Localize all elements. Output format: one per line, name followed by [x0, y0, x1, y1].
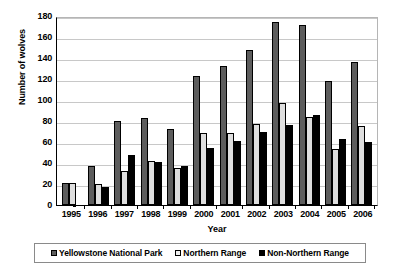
bar — [88, 166, 95, 205]
bar — [279, 103, 286, 205]
bar-group — [164, 18, 190, 205]
bar-group — [85, 18, 111, 205]
bar-group — [349, 18, 375, 205]
bar — [155, 162, 162, 205]
bar — [69, 183, 76, 205]
bar — [234, 141, 241, 205]
wolf-population-bar-chart: Number of wolves 02040608010012014016018… — [0, 0, 393, 276]
x-tick-label: 2003 — [270, 209, 297, 219]
x-axis-tick-labels: 1995199619971998199920002001200220032004… — [56, 209, 378, 219]
bar — [253, 124, 260, 205]
legend-item[interactable]: Non-Northern Range — [259, 248, 349, 258]
bar-group — [217, 18, 243, 205]
bar — [200, 133, 207, 205]
y-axis-tick-labels: 020406080100120140160180 — [20, 12, 52, 208]
legend-item[interactable]: Yellowstone National Park — [51, 248, 162, 258]
plot-area — [56, 17, 378, 206]
legend-label: Yellowstone National Park — [59, 248, 162, 258]
chart-legend: Yellowstone National ParkNorthern RangeN… — [34, 243, 366, 263]
bar-group — [112, 18, 138, 205]
bar — [299, 25, 306, 205]
bar — [148, 161, 155, 205]
bar — [102, 187, 109, 205]
bar — [227, 133, 234, 205]
y-tick-label: 0 — [20, 201, 52, 210]
x-tick-label: 2004 — [297, 209, 324, 219]
x-tick-label: 2001 — [217, 209, 244, 219]
x-tick-label: 1996 — [85, 209, 112, 219]
bar — [365, 142, 372, 205]
y-tick-label: 60 — [20, 138, 52, 147]
bar — [174, 168, 181, 205]
bar-group — [270, 18, 296, 205]
bar — [114, 121, 121, 205]
bar — [207, 148, 214, 205]
legend-label: Non-Northern Range — [267, 248, 349, 258]
bar — [220, 66, 227, 205]
bar — [193, 76, 200, 205]
bar — [286, 125, 293, 205]
bar — [260, 132, 267, 206]
y-tick-label: 140 — [20, 54, 52, 63]
y-tick-label: 80 — [20, 117, 52, 126]
y-tick-label: 20 — [20, 180, 52, 189]
light-gray-swatch — [175, 250, 181, 256]
y-tick-label: 100 — [20, 96, 52, 105]
x-tick-label: 2002 — [244, 209, 271, 219]
y-tick-label: 120 — [20, 75, 52, 84]
bar — [167, 129, 174, 205]
bar — [313, 115, 320, 205]
y-tick-label: 160 — [20, 33, 52, 42]
bar-group — [138, 18, 164, 205]
bar — [306, 117, 313, 205]
bar — [95, 184, 102, 205]
bar — [181, 166, 188, 205]
bar — [121, 171, 128, 205]
y-tick-label: 40 — [20, 159, 52, 168]
legend-label: Northern Range — [183, 248, 246, 258]
legend-item[interactable]: Northern Range — [175, 248, 246, 258]
bar — [339, 139, 346, 205]
dark-gray-swatch — [51, 250, 57, 256]
bar-group — [322, 18, 348, 205]
x-tick-label: 2005 — [323, 209, 350, 219]
black-swatch — [259, 250, 265, 256]
y-tick-mark — [73, 206, 76, 207]
bar — [128, 155, 135, 205]
bar — [272, 22, 279, 205]
bar-group — [59, 18, 85, 205]
x-tick-label: 1998 — [138, 209, 165, 219]
x-tick-label: 1999 — [164, 209, 191, 219]
y-tick-label: 180 — [20, 12, 52, 21]
bar-group — [296, 18, 322, 205]
x-tick-label: 2000 — [191, 209, 218, 219]
bar — [141, 118, 148, 205]
x-axis-title: Year — [56, 224, 378, 234]
bar-group — [191, 18, 217, 205]
bar — [358, 126, 365, 205]
bar — [332, 149, 339, 205]
bar — [351, 62, 358, 205]
bar-group — [243, 18, 269, 205]
bar — [246, 50, 253, 205]
x-tick-label: 2006 — [350, 209, 377, 219]
bar — [325, 81, 332, 205]
bar — [62, 183, 69, 205]
bar-groups — [57, 18, 377, 205]
x-tick-label: 1997 — [111, 209, 138, 219]
x-tick-label: 1995 — [58, 209, 85, 219]
